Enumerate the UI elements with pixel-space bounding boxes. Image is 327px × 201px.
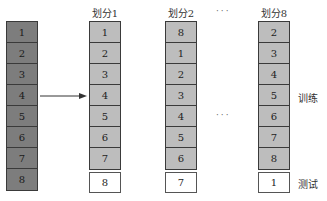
train-label: 训练 [298, 90, 318, 105]
train-cell: 5 [166, 127, 196, 148]
source-column: 1 2 3 4 5 6 7 8 [6, 21, 38, 191]
source-cell: 1 [7, 22, 37, 43]
split-train-column: 8 1 2 3 4 5 6 [165, 21, 197, 170]
test-label: 测试 [298, 176, 318, 191]
split-test-cell: 8 [89, 172, 121, 193]
source-cell: 2 [7, 43, 37, 64]
split-test-cell: 7 [165, 172, 197, 193]
train-cell: 7 [90, 148, 120, 169]
train-cell: 6 [259, 106, 289, 127]
train-cell: 6 [166, 148, 196, 169]
train-cell: 4 [259, 64, 289, 85]
split-title: 划分2 [156, 5, 206, 20]
source-cell: 4 [7, 85, 37, 106]
source-cell: 8 [7, 169, 37, 190]
source-cell: 5 [7, 106, 37, 127]
ellipsis-middle: ··· [216, 110, 231, 120]
train-cell: 1 [90, 22, 120, 43]
split-train-column: 1 2 3 4 5 6 7 [89, 21, 121, 170]
arrow-icon [39, 92, 89, 100]
train-cell: 3 [90, 64, 120, 85]
train-cell: 8 [166, 22, 196, 43]
ellipsis-top: ··· [216, 6, 231, 16]
train-cell: 6 [90, 127, 120, 148]
train-cell: 2 [259, 22, 289, 43]
source-cell: 7 [7, 148, 37, 169]
train-cell: 4 [90, 85, 120, 106]
train-cell: 8 [259, 148, 289, 169]
split-train-column: 2 3 4 5 6 7 8 [258, 21, 290, 170]
split-title: 划分1 [80, 5, 130, 20]
source-cell: 3 [7, 64, 37, 85]
split-test-cell: 1 [258, 172, 290, 193]
train-cell: 5 [259, 85, 289, 106]
train-cell: 4 [166, 106, 196, 127]
source-cell: 6 [7, 127, 37, 148]
split-title: 划分8 [249, 5, 299, 20]
train-cell: 3 [166, 85, 196, 106]
train-cell: 2 [90, 43, 120, 64]
train-cell: 1 [166, 43, 196, 64]
train-cell: 5 [90, 106, 120, 127]
train-cell: 3 [259, 43, 289, 64]
train-cell: 7 [259, 127, 289, 148]
train-cell: 2 [166, 64, 196, 85]
